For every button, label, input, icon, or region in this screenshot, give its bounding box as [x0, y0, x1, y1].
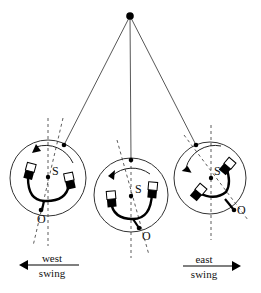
block-left	[190, 183, 207, 201]
label-o: O	[237, 203, 246, 217]
block-left	[23, 162, 36, 180]
label-s: S	[214, 164, 221, 178]
rotation-arrowhead-icon	[182, 165, 193, 173]
west-swing-arrow: west swing	[19, 252, 79, 279]
block-right	[64, 172, 76, 190]
pendulum-strings	[64, 16, 196, 160]
center-point-s	[129, 194, 133, 198]
label-s: S	[135, 182, 142, 196]
attach-point	[129, 158, 134, 163]
center-point-s	[209, 176, 213, 180]
string-center	[130, 16, 131, 160]
attach-point	[194, 143, 199, 148]
block-right	[147, 182, 157, 199]
pendulum-west: S O	[10, 118, 86, 246]
west-swing-label: swing	[39, 267, 66, 279]
east-swing-label: swing	[191, 268, 218, 280]
point-o	[232, 208, 237, 213]
attach-point	[62, 143, 67, 148]
u-arm	[28, 178, 69, 201]
label-o: O	[37, 212, 46, 226]
label-o: O	[142, 229, 151, 243]
rotation-arrowhead-icon	[32, 144, 41, 153]
pendulum-diagram: S O S O	[0, 0, 261, 293]
block-left	[106, 191, 116, 208]
pendulum-center: S O	[94, 140, 168, 258]
west-label: west	[42, 252, 62, 264]
diagram-canvas: S O S O	[0, 0, 261, 293]
pivot-point	[126, 12, 134, 20]
east-swing-arrow: east swing	[183, 253, 241, 280]
arrow-right-icon	[232, 261, 241, 271]
arrow-left-icon	[19, 260, 28, 270]
string-east	[130, 16, 196, 145]
center-point-s	[46, 175, 50, 179]
string-west	[64, 16, 130, 145]
label-s: S	[52, 164, 59, 178]
east-label: east	[195, 253, 212, 265]
rotation-arrowhead-icon	[108, 170, 115, 180]
point-o	[137, 226, 142, 231]
pendulum-east: S O	[174, 125, 248, 240]
block-right	[219, 157, 236, 175]
